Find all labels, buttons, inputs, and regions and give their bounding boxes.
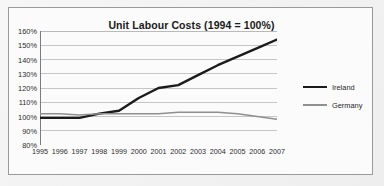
y-tick-label: 110%	[19, 98, 37, 107]
x-tick-label: 2000	[131, 147, 147, 156]
x-tick-label: 2001	[151, 147, 167, 156]
x-tick-label: 2004	[210, 147, 226, 156]
legend-label-germany: Germany	[332, 101, 362, 110]
x-tick-label: 2007	[269, 147, 285, 156]
plot-area: 80%90%100%110%120%130%140%150%160% 19951…	[40, 31, 277, 145]
x-tick-label: 2006	[249, 147, 265, 156]
y-tick-label: 100%	[18, 112, 37, 121]
legend-item-ireland: Ireland	[303, 82, 373, 92]
chart-screenshot: Unit Labour Costs (1994 = 100%) 80%90%10…	[0, 0, 384, 186]
x-tick-label: 2005	[230, 147, 246, 156]
series-lines	[40, 40, 277, 120]
x-tick-label: 1995	[32, 147, 48, 156]
x-tick-label: 2003	[190, 147, 206, 156]
chart-legend: Ireland Germany	[303, 82, 373, 118]
y-tick-label: 90%	[22, 126, 37, 135]
y-tick-label: 160%	[18, 27, 37, 36]
y-tick-label: 130%	[18, 69, 37, 78]
y-tick-label: 120%	[18, 84, 37, 93]
series-line-ireland	[40, 40, 277, 118]
x-tick-label: 1996	[52, 147, 68, 156]
legend-swatch-ireland	[303, 86, 327, 89]
x-tick-label: 2002	[170, 147, 186, 156]
chart-plot-svg	[40, 31, 277, 145]
legend-swatch-germany	[303, 104, 327, 106]
chart-title: Unit Labour Costs (1994 = 100%)	[9, 19, 374, 31]
y-tick-label: 140%	[18, 55, 37, 64]
y-tick-label: 150%	[18, 41, 37, 50]
legend-label-ireland: Ireland	[332, 83, 355, 92]
x-tick-label: 1999	[111, 147, 127, 156]
legend-item-germany: Germany	[303, 100, 373, 110]
x-tick-label: 1998	[91, 147, 107, 156]
x-tick-label: 1997	[71, 147, 87, 156]
